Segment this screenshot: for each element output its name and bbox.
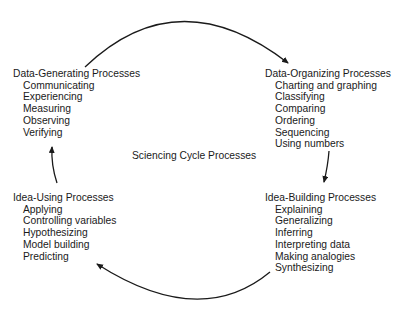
list-item: Model building [23,239,116,251]
list-item: Comparing [275,103,391,115]
list-item: Interpreting data [275,239,376,251]
group-items: Explaining Generalizing Inferring Interp… [265,204,376,274]
list-item: Observing [23,115,140,127]
list-item: Controlling variables [23,215,116,227]
list-item: Explaining [275,204,376,216]
list-item: Hypothesizing [23,227,116,239]
list-item: Verifying [23,127,140,139]
data-generating-group: Data-Generating Processes Communicating … [13,68,140,138]
group-title: Data-Generating Processes [13,68,140,80]
arrow-data-organizing-to-idea-building [324,151,329,182]
group-title: Idea-Using Processes [13,192,116,204]
list-item: Making analogies [275,251,376,263]
list-item: Communicating [23,80,140,92]
list-item: Experiencing [23,91,140,103]
list-item: Sequencing [275,127,391,139]
group-items: Communicating Experiencing Measuring Obs… [13,80,140,139]
list-item: Synthesizing [275,262,376,274]
group-items: Applying Controlling variables Hypothesi… [13,204,116,263]
list-item: Measuring [23,103,140,115]
center-label: Sciencing Cycle Processes [132,150,256,161]
arrow-idea-building-to-idea-using [97,264,270,299]
arrow-data-generating-to-data-organizing [85,21,288,67]
list-item: Generalizing [275,215,376,227]
list-item: Using numbers [275,138,391,150]
arrow-idea-using-to-data-generating [52,147,57,183]
idea-using-group: Idea-Using Processes Applying Controllin… [13,192,116,262]
idea-building-group: Idea-Building Processes Explaining Gener… [265,192,376,274]
group-title: Idea-Building Processes [265,192,376,204]
list-item: Predicting [23,251,116,263]
data-organizing-group: Data-Organizing Processes Charting and g… [265,68,391,150]
list-item: Applying [23,204,116,216]
list-item: Charting and graphing [275,80,391,92]
group-items: Charting and graphing Classifying Compar… [265,80,391,150]
group-title: Data-Organizing Processes [265,68,391,80]
list-item: Ordering [275,115,391,127]
list-item: Classifying [275,91,391,103]
list-item: Inferring [275,227,376,239]
